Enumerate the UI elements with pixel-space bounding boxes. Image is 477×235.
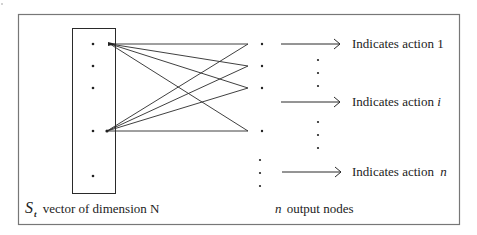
arrow-action-n-icon	[282, 167, 341, 177]
input-nodes	[92, 43, 95, 178]
input-caption-text: vector of dimension N	[43, 201, 160, 216]
action-label-index: 1	[437, 36, 444, 51]
output-caption-text: output nodes	[287, 201, 354, 216]
input-vector-box	[73, 29, 116, 194]
state-symbol: S	[25, 199, 33, 216]
action-label-1: Indicates action 1	[352, 37, 444, 50]
artifact-dot	[1, 3, 3, 5]
output-count-symbol: n	[275, 201, 282, 216]
state-subscript: t	[34, 209, 37, 219]
connection-lines	[107, 44, 248, 131]
output-nodes	[259, 43, 263, 187]
ellipsis-dots	[317, 59, 319, 149]
action-label-index: i	[437, 94, 441, 109]
action-label-i: Indicates action i	[352, 95, 441, 108]
input-caption: St vector of dimension N	[25, 200, 159, 216]
arrow-action-i-icon	[281, 97, 340, 107]
action-arrows	[281, 39, 341, 177]
output-caption: n output nodes	[275, 202, 354, 215]
action-label-prefix: Indicates action	[352, 94, 434, 109]
action-label-prefix: Indicates action	[352, 36, 434, 51]
action-label-index: n	[440, 164, 447, 179]
action-label-n: Indicates action n	[352, 165, 447, 178]
action-label-prefix: Indicates action	[352, 164, 434, 179]
arrow-action-1-icon	[281, 39, 340, 49]
source-markers	[105, 42, 116, 133]
